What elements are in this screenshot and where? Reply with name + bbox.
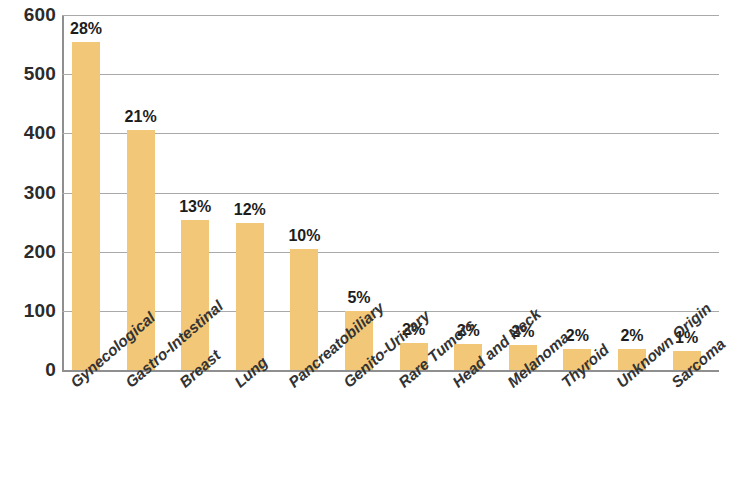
bar-value-label: 13% xyxy=(179,198,211,216)
gridline-500 xyxy=(62,74,719,75)
y-axis-tick-300: 300 xyxy=(4,182,56,204)
x-axis-category-labels: GynecologicalGastro-IntestinalBreastLung… xyxy=(0,372,720,498)
bar-value-label: 21% xyxy=(125,108,157,126)
gridline-200 xyxy=(62,252,719,253)
gridline-400 xyxy=(62,133,719,134)
bar-value-label: 2% xyxy=(620,327,643,345)
y-axis-tick-100: 100 xyxy=(4,300,56,322)
bar xyxy=(181,220,209,370)
gridline-600 xyxy=(62,15,719,16)
y-axis-tick-500: 500 xyxy=(4,63,56,85)
bar-value-label: 12% xyxy=(234,201,266,219)
bar-value-label: 10% xyxy=(288,227,320,245)
y-axis-tick-400: 400 xyxy=(4,122,56,144)
bar-value-label: 28% xyxy=(70,20,102,38)
y-axis-tick-200: 200 xyxy=(4,241,56,263)
bar xyxy=(72,42,100,370)
bar xyxy=(236,223,264,370)
y-axis-tick-600: 600 xyxy=(4,4,56,26)
plot-area: 28%21%13%12%10%5%2%2%2%2%2%1% xyxy=(62,15,719,370)
gridline-100 xyxy=(62,311,719,312)
bar-value-label: 5% xyxy=(347,289,370,307)
gridline-300 xyxy=(62,193,719,194)
